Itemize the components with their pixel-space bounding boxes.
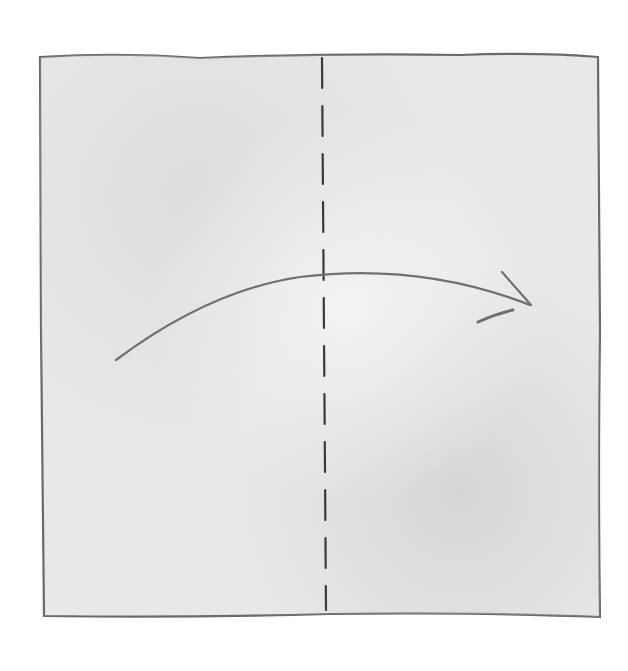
folding-diagram — [0, 0, 628, 671]
paper-square — [40, 54, 600, 617]
